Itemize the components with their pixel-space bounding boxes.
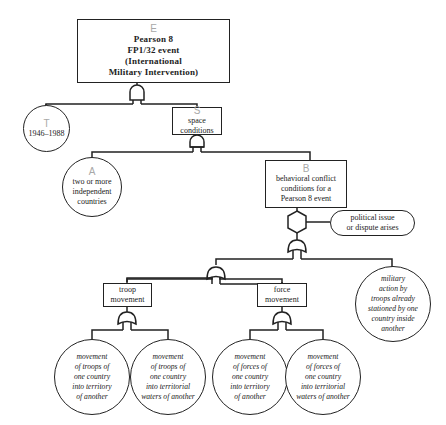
node-military-line-5: country inside — [371, 314, 414, 324]
node-a-line-2: independent — [72, 187, 111, 197]
node-troop-line-2: movement — [111, 295, 145, 305]
node-military-action-stationed-troops: military action by troops already statio… — [355, 266, 431, 342]
node-tw-line-2: of troops of — [151, 362, 186, 372]
node-political-line-2: or dispute arises — [347, 223, 399, 233]
node-force-movement: force movement — [257, 283, 307, 307]
node-a-line-1: two or more — [72, 177, 111, 187]
node-s-letter: S — [194, 106, 201, 116]
node-troop-into-waters: movement of troops of one country into t… — [130, 339, 206, 415]
node-ft-line-4: into territory — [230, 382, 269, 392]
node-e-line-1: Pearson 8 — [134, 34, 174, 45]
node-force-into-waters: movement of forces of one country into t… — [285, 339, 361, 415]
node-fw-line-2: of forces of — [306, 362, 340, 372]
node-military-line-4: stationed by one — [368, 304, 418, 314]
node-tt-line-3: one country — [74, 372, 110, 382]
node-b-line-1: behavioral conflict — [276, 174, 336, 184]
node-t-letter: T — [43, 119, 49, 129]
node-military-line-6: another — [381, 324, 405, 334]
node-political-line-1: political issue — [350, 213, 394, 223]
node-tt-line-5: of another — [76, 392, 107, 402]
node-a-letter: A — [89, 167, 96, 177]
node-e-line-2: FP1/32 event — [127, 45, 179, 56]
node-e-letter: E — [150, 24, 157, 34]
node-military-line-1: military — [381, 274, 405, 284]
node-tt-line-4: into territory — [72, 382, 111, 392]
node-fw-line-5: waters of another — [296, 392, 350, 402]
node-ft-line-2: of forces of — [233, 362, 267, 372]
node-troop-movement: troop movement — [103, 283, 152, 307]
node-s-space-conditions: S space conditions — [172, 107, 222, 135]
node-e-line-4: Military Intervention) — [109, 67, 199, 78]
node-military-line-3: troops already — [371, 294, 415, 304]
node-force-line-1: force — [274, 285, 290, 295]
node-s-line-2: conditions — [180, 126, 213, 136]
node-troop-line-1: troop — [119, 285, 136, 295]
node-s-line-1: space — [188, 116, 206, 126]
node-tt-line-1: movement — [77, 352, 108, 362]
node-military-line-2: action by — [379, 284, 407, 294]
node-b-line-2: conditions for a — [281, 184, 331, 194]
node-force-into-territory: movement of forces of one country into t… — [212, 339, 288, 415]
node-b-behavioral-conflict: B behavioral conflict conditions for a P… — [265, 160, 347, 208]
node-ft-line-5: of another — [234, 392, 265, 402]
node-t-line-1: 1946–1988 — [29, 129, 65, 139]
node-tw-line-5: waters of another — [141, 392, 195, 402]
node-tw-line-1: movement — [153, 352, 184, 362]
node-force-line-2: movement — [265, 295, 299, 305]
node-political-issue-condition: political issue or dispute arises — [330, 210, 415, 236]
node-ft-line-3: one country — [232, 372, 268, 382]
node-fw-line-4: into territorial — [301, 382, 345, 392]
node-tw-line-4: into territorial — [146, 382, 190, 392]
node-fw-line-1: movement — [308, 352, 339, 362]
node-troop-into-territory: movement of troops of one country into t… — [54, 339, 130, 415]
node-e-line-3: (International — [125, 56, 182, 67]
node-ft-line-1: movement — [235, 352, 266, 362]
node-fw-line-3: one country — [305, 372, 341, 382]
node-t-time-period: T 1946–1988 — [23, 105, 70, 152]
node-a-line-3: countries — [77, 197, 106, 207]
node-tw-line-3: one country — [150, 372, 186, 382]
node-tt-line-2: of troops of — [75, 362, 110, 372]
node-b-letter: B — [303, 164, 310, 174]
node-a-independent-countries: A two or more independent countries — [62, 157, 122, 217]
node-b-line-3: Pearson 8 event — [281, 194, 332, 204]
node-e-pearson8-event: E Pearson 8 FP1/32 event (International … — [77, 19, 230, 83]
